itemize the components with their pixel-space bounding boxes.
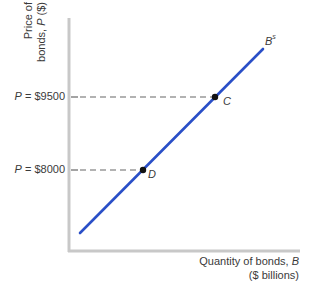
supply-curve [80,49,263,233]
x-axis-label-line1: Quantity of bonds, B [199,254,299,268]
point-d-marker [140,167,146,173]
y-axis-label: Price of bonds, P ($) [14,2,74,62]
y-axis-label-line2: bonds, P ($) [35,2,48,62]
y-axis-label-line1: Price of [22,2,35,62]
supply-curve-label: Bs [265,34,276,47]
x-axis-label: Quantity of bonds, B ($ billions) [199,254,299,282]
point-d-label: D [148,168,156,180]
tick-label-8000: P = $8000 [5,163,65,175]
x-axis-label-line2: ($ billions) [199,268,299,282]
tick-label-9500: P = $9500 [5,90,65,102]
point-c-label: C [223,95,231,107]
point-c-marker [212,94,218,100]
